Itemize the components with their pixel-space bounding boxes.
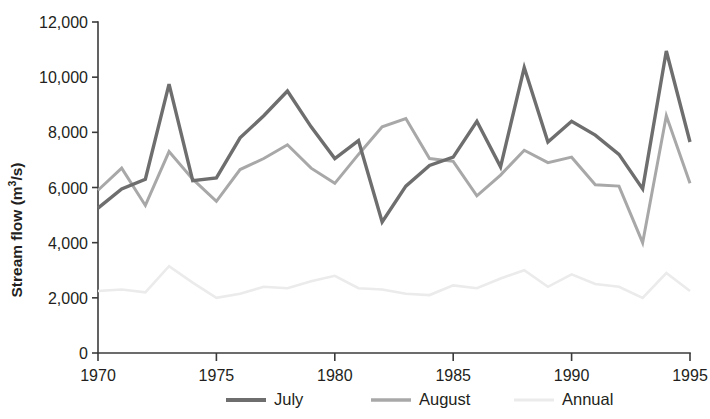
y-axis-title-post: /s) [8, 162, 25, 180]
y-axis-tick-label: 0 [79, 345, 88, 362]
x-axis-tick-label: 1980 [317, 367, 353, 384]
series-line-july [98, 51, 690, 222]
legend-label-annual: Annual [562, 390, 613, 408]
y-axis-title: Stream flow (m3/s) [6, 162, 25, 297]
data-series-group [98, 51, 690, 298]
x-axis-tick-label: 1975 [199, 367, 235, 384]
chart-canvas: Stream flow (m3/s) 02,0004,0006,0008,000… [0, 0, 710, 419]
stream-flow-chart-figure: Stream flow (m3/s) 02,0004,0006,0008,000… [0, 0, 710, 419]
y-axis-tick-label: 2,000 [48, 290, 88, 307]
y-axis-tick-marks [92, 22, 98, 353]
x-axis-tick-label: 1995 [672, 367, 708, 384]
y-axis-tick-label: 8,000 [48, 124, 88, 141]
x-axis-tick-labels: 197019751980198519901995 [80, 367, 708, 384]
legend-label-august: August [419, 390, 471, 408]
chart-legend: JulyAugustAnnual [226, 390, 613, 408]
x-axis-tick-label: 1970 [80, 367, 116, 384]
y-axis-tick-label: 10,000 [39, 69, 88, 86]
legend-label-july: July [274, 390, 304, 408]
y-axis-tick-label: 4,000 [48, 235, 88, 252]
x-axis-tick-label: 1985 [435, 367, 471, 384]
series-line-annual [98, 266, 690, 298]
series-line-august [98, 116, 690, 243]
y-axis-title-pre: Stream flow (m [8, 186, 25, 297]
y-axis-tick-label: 12,000 [39, 14, 88, 31]
y-axis-tick-labels: 02,0004,0006,0008,00010,00012,000 [39, 14, 88, 362]
x-axis-tick-label: 1990 [554, 367, 590, 384]
x-axis-tick-marks [98, 353, 690, 361]
y-axis-title-text: Stream flow (m3/s) [6, 162, 25, 297]
y-axis-tick-label: 6,000 [48, 180, 88, 197]
